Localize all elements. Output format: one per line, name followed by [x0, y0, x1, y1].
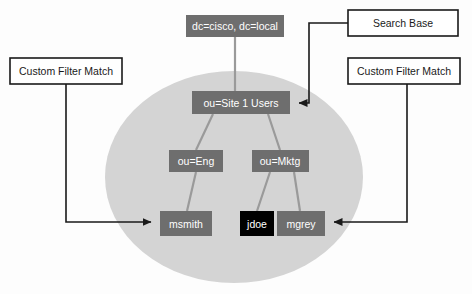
node-eng[interactable]: ou=Eng: [169, 150, 223, 172]
node-site1[interactable]: ou=Site 1 Users: [192, 91, 290, 114]
ldap-tree-diagram: dc=cisco, dc=local ou=Site 1 Users ou=En…: [0, 0, 472, 294]
node-root-box[interactable]: [186, 15, 284, 37]
node-mgrey-box[interactable]: [277, 211, 325, 236]
node-msmith-box[interactable]: [160, 211, 212, 236]
callout-custom-filter-right-box[interactable]: [348, 58, 460, 84]
node-mktg[interactable]: ou=Mktg: [252, 150, 309, 172]
callout-custom-filter-left-box[interactable]: [10, 58, 122, 84]
node-jdoe[interactable]: jdoe: [240, 211, 274, 236]
node-jdoe-box[interactable]: [240, 211, 274, 236]
node-eng-box[interactable]: [169, 150, 223, 172]
node-msmith[interactable]: msmith: [160, 211, 212, 236]
callout-custom-filter-right[interactable]: Custom Filter Match: [348, 58, 460, 84]
callout-search-base[interactable]: Search Base: [348, 10, 458, 36]
callout-search-base-box[interactable]: [348, 10, 458, 36]
node-site1-box[interactable]: [192, 91, 290, 114]
callout-custom-filter-left[interactable]: Custom Filter Match: [10, 58, 122, 84]
node-mgrey[interactable]: mgrey: [277, 211, 325, 236]
node-mktg-box[interactable]: [252, 150, 309, 172]
node-root[interactable]: dc=cisco, dc=local: [186, 15, 284, 37]
diagram-canvas: dc=cisco, dc=local ou=Site 1 Users ou=En…: [0, 0, 472, 294]
